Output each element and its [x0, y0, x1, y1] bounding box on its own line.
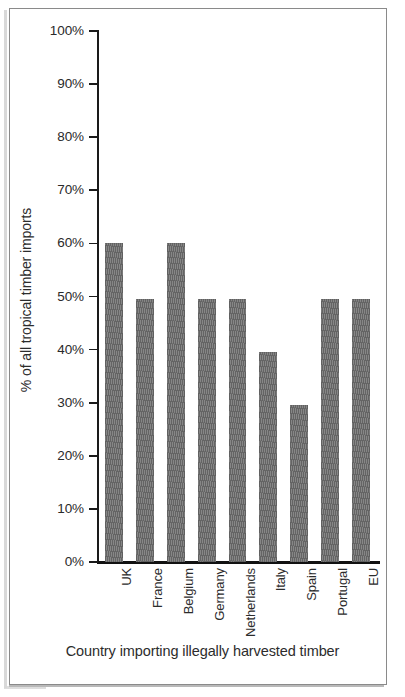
x-axis-tick-label: Belgium — [181, 568, 196, 614]
y-axis-tick — [89, 455, 98, 457]
y-axis-tick — [89, 349, 98, 351]
bar — [259, 352, 277, 562]
plot-area — [99, 31, 376, 562]
bar — [229, 299, 247, 562]
y-axis-tick-label: 10% — [24, 501, 84, 516]
y-axis-tick-label: 80% — [24, 129, 84, 144]
x-axis-tick-label: UK — [119, 568, 134, 586]
y-axis-tick — [89, 136, 98, 138]
bar — [136, 299, 154, 562]
x-axis-tick-label: Germany — [212, 568, 227, 621]
x-axis-tick-label: EU — [366, 568, 381, 586]
scan-artifact-bottom — [4, 686, 46, 694]
y-axis-tick — [89, 296, 98, 298]
bar — [105, 243, 123, 562]
x-axis-tick-label: Netherlands — [243, 568, 258, 637]
y-axis-tick — [89, 83, 98, 85]
bar — [167, 243, 185, 562]
y-axis-tick-label: 0% — [24, 554, 84, 569]
y-axis-tick-label: 30% — [24, 395, 84, 410]
x-axis-tick-label: Italy — [273, 568, 288, 591]
y-axis-tick — [89, 189, 98, 191]
bar — [290, 405, 308, 562]
bar — [352, 299, 370, 562]
y-axis-tick — [89, 243, 98, 245]
x-axis-tick-label: France — [150, 568, 165, 608]
x-axis-title: Country importing illegally harvested ti… — [0, 643, 405, 659]
y-axis-tick-label: 100% — [24, 23, 84, 38]
y-axis-tick-label: 90% — [24, 76, 84, 91]
bar — [321, 299, 339, 562]
chart-figure: 0%10%20%30%40%50%60%70%80%90%100% UKFran… — [0, 0, 405, 697]
x-axis-tick-label: Portugal — [335, 568, 350, 616]
y-axis-tick — [89, 508, 98, 510]
bar — [198, 299, 216, 562]
scan-artifact-left — [4, 10, 7, 688]
y-axis-tick — [89, 402, 98, 404]
x-axis-tick-label: Spain — [304, 568, 319, 601]
y-axis-tick — [89, 30, 98, 32]
y-axis-tick — [89, 561, 98, 563]
y-axis-tick-label: 70% — [24, 182, 84, 197]
y-axis-title: % of all tropical timber imports — [18, 208, 34, 392]
y-axis-tick-label: 20% — [24, 448, 84, 463]
